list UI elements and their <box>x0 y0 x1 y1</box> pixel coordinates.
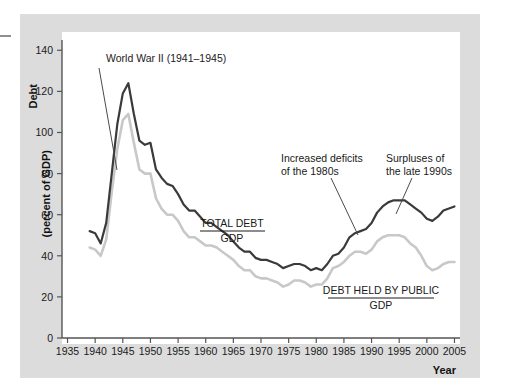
annotation-wwii: World War II (1941–1945) <box>106 52 226 64</box>
annotation-deficits-line1: Increased deficits <box>281 152 363 164</box>
y-tick-label: 140 <box>35 44 53 56</box>
series-label-public-denominator: GDP <box>370 299 393 311</box>
figure-container: 020406080100120140 193519401945195019551… <box>0 0 506 392</box>
x-tick-label: 1975 <box>277 345 301 357</box>
x-tick-label: 1990 <box>360 345 384 357</box>
x-tick-label: 1980 <box>305 345 329 357</box>
x-tick-label: 1995 <box>388 345 412 357</box>
y-tick-label: 0 <box>47 332 53 344</box>
x-tick-label: 1940 <box>83 345 107 357</box>
x-axis-title: Year <box>433 364 457 376</box>
x-tick-label: 1935 <box>56 345 80 357</box>
x-tick-label: 1960 <box>194 345 218 357</box>
x-tick-label: 2005 <box>443 345 467 357</box>
y-axis-title-line2: (percent of GDP) <box>40 150 52 238</box>
annotation-surpluses-line1: Surpluses of <box>386 152 444 164</box>
x-tick-label: 1965 <box>222 345 246 357</box>
annotation-deficits-line2: of the 1980s <box>281 165 339 177</box>
x-tick-label: 1945 <box>111 345 135 357</box>
y-axis-title-line1: Debt <box>27 84 39 109</box>
series-label-total-numerator: TOTAL DEBT <box>200 217 264 229</box>
x-tick-label: 2000 <box>415 345 439 357</box>
wwii-leader-line <box>99 68 117 170</box>
x-axis-ticks: 1935194019451950195519601965197019751980… <box>56 338 466 357</box>
series-label-public-numerator: DEBT HELD BY PUBLIC <box>323 284 440 296</box>
surpluses-leader-line <box>396 178 412 214</box>
y-tick-label: 20 <box>41 291 53 303</box>
annotation-surpluses-line2: the late 1990s <box>386 165 452 177</box>
x-tick-label: 1985 <box>332 345 356 357</box>
x-tick-label: 1950 <box>139 345 163 357</box>
deficits-leader-line <box>331 178 358 235</box>
y-tick-label: 40 <box>41 250 53 262</box>
debt-gdp-line-chart: 020406080100120140 193519401945195019551… <box>0 0 506 392</box>
x-tick-label: 1970 <box>249 345 273 357</box>
series-label-total-denominator: GDP <box>221 232 244 244</box>
x-tick-label: 1955 <box>166 345 190 357</box>
y-tick-label: 100 <box>35 126 53 138</box>
